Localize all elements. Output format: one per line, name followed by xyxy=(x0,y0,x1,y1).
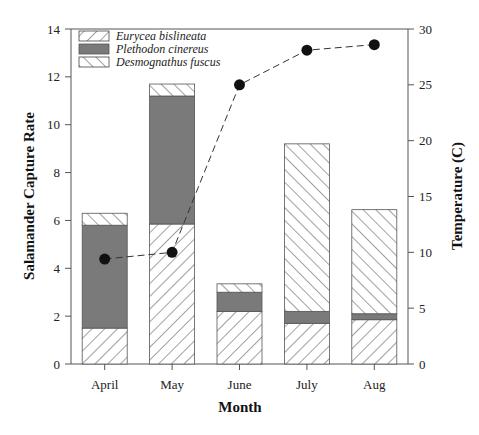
temperature-marker xyxy=(167,247,178,258)
temperature-line xyxy=(99,39,380,264)
x-tick-label: July xyxy=(296,377,318,392)
y-right-tick-label: 25 xyxy=(419,77,432,92)
y-right-tick-label: 15 xyxy=(419,189,432,204)
bar-segment xyxy=(284,311,329,323)
legend-swatch-plethodon xyxy=(79,44,109,54)
y-right-tick-label: 5 xyxy=(419,301,426,316)
y-left-tick-label: 4 xyxy=(54,261,61,276)
bar-segment xyxy=(150,224,195,364)
legend-label-desmognathus: Desmognathus fuscus xyxy=(115,55,221,69)
temperature-marker xyxy=(234,79,245,90)
x-tick-label: June xyxy=(228,377,252,392)
y-right-tick-label: 20 xyxy=(419,133,432,148)
y-left-tick-label: 12 xyxy=(47,69,60,84)
bar-segment xyxy=(352,314,397,320)
y-left-tick-label: 2 xyxy=(54,309,61,324)
bar-segment xyxy=(217,284,262,292)
y-right-tick-label: 10 xyxy=(419,245,432,260)
bar-segment xyxy=(217,292,262,311)
chart: 02468101214 051015202530 AprilMayJuneJul… xyxy=(0,0,479,435)
y-left-tick-label: 10 xyxy=(47,117,60,132)
bar-segment xyxy=(82,225,127,328)
stacked-bars xyxy=(82,84,397,364)
y-axis-right: 051015202530 xyxy=(408,22,432,372)
bar-segment xyxy=(284,323,329,364)
temperature-marker xyxy=(369,39,380,50)
legend-swatch-desmognathus xyxy=(79,57,109,67)
bar-segment xyxy=(352,320,397,364)
y-right-tick-label: 0 xyxy=(419,357,426,372)
x-tick-label: April xyxy=(91,377,119,392)
x-axis-title: Month xyxy=(218,399,262,415)
x-tick-label: May xyxy=(160,377,184,392)
bar-segment xyxy=(284,144,329,312)
bar-segment xyxy=(150,96,195,224)
temperature-marker xyxy=(301,45,312,56)
y-left-tick-label: 6 xyxy=(54,213,61,228)
bar-segment xyxy=(82,328,127,364)
y-left-tick-label: 14 xyxy=(47,22,61,37)
legend-label-eurycea: Eurycea bislineata xyxy=(115,29,206,43)
y-left-tick-label: 8 xyxy=(54,165,61,180)
bar-segment xyxy=(217,311,262,364)
y-axis-left-title: Salamander Capture Rate xyxy=(21,112,37,280)
y-right-tick-label: 30 xyxy=(419,22,432,37)
bar-segment xyxy=(150,84,195,96)
x-axis: AprilMayJuneJulyAug xyxy=(91,364,386,392)
legend-swatch-eurycea xyxy=(79,31,109,41)
legend: Eurycea bislineata Plethodon cinereus De… xyxy=(79,29,221,69)
x-tick-label: Aug xyxy=(363,377,386,392)
legend-label-plethodon: Plethodon cinereus xyxy=(115,42,209,56)
y-axis-left: 02468101214 xyxy=(47,22,71,372)
y-left-tick-label: 0 xyxy=(54,357,61,372)
temperature-marker xyxy=(99,254,110,265)
y-axis-right-title: Temperature (C) xyxy=(449,142,466,250)
bar-segment xyxy=(82,213,127,225)
bar-segment xyxy=(352,210,397,314)
